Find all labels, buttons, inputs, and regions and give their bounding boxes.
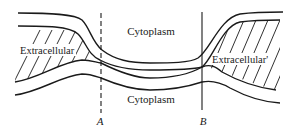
membrane-diagram: Cytoplasm Cytoplasm Extracellular Extrac… [0, 0, 286, 130]
label-marker-a: A [96, 115, 104, 127]
label-cytoplasm-bottom: Cytoplasm [127, 93, 175, 105]
label-cytoplasm-top: Cytoplasm [127, 25, 175, 37]
label-marker-b: B [200, 115, 207, 127]
label-extracellular-right: Extracellular' [212, 54, 268, 65]
label-extracellular-left: Extracellular [20, 45, 75, 56]
